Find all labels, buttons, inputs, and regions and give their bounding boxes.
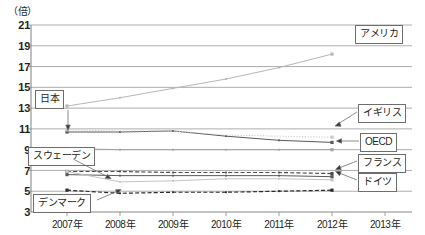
callout-leader-lines: [0, 0, 425, 235]
line-chart: （倍） 21 19 17 15 13 11 9 7 5 3 2007年 2008…: [0, 0, 425, 235]
